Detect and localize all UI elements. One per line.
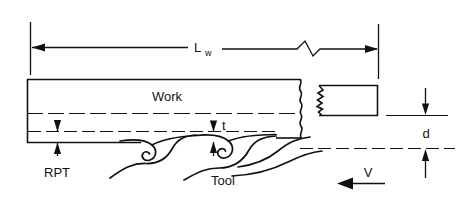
label-tool: Tool [211, 173, 235, 188]
d-arrowhead-up [422, 149, 429, 161]
detached-workpiece-block [317, 85, 378, 116]
block-torn-left-edge [317, 86, 323, 116]
break-line-work-lower [300, 115, 302, 139]
label-thickness-t: t [222, 118, 226, 133]
break-line-work-upper [299, 79, 302, 115]
dimension-length-lw: L w [31, 22, 379, 79]
arrowhead-right [365, 45, 378, 53]
label-work: Work [152, 89, 183, 104]
rpt-arrowhead-up [54, 143, 61, 155]
dimension-rpt: RPT [44, 120, 70, 180]
velocity-arrowhead-left [337, 178, 353, 190]
workpiece-body: Work [27, 79, 302, 143]
dimension-line-right-segment-with-break [222, 41, 377, 56]
label-rpt: RPT [44, 165, 70, 180]
rpt-arrowhead-down [54, 120, 61, 132]
machining-diagram-figure: L w Work [0, 0, 467, 201]
chip-spiral-left-top [152, 136, 196, 146]
d-arrowhead-down [422, 104, 429, 116]
label-length-lw: L [194, 40, 201, 55]
t-arrowhead-down [210, 121, 217, 132]
t-arrowhead-up [210, 142, 217, 154]
label-velocity-v: V [364, 165, 373, 180]
label-depth-d: d [422, 126, 429, 141]
label-length-subscript: w [204, 48, 212, 58]
diagram-canvas: L w Work [0, 0, 467, 201]
chip-spiral-right-top [229, 135, 277, 142]
arrowhead-left [32, 44, 45, 52]
velocity-indicator: V [337, 165, 385, 190]
